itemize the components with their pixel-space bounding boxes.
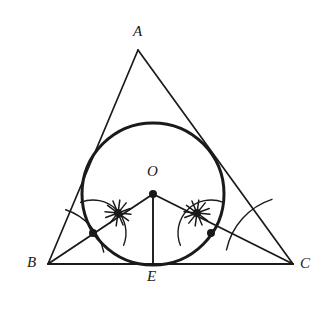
construction-star-right-icon [184,200,210,226]
angle-bisector-from-b [48,194,153,264]
vertex-label-a: A [133,24,142,39]
triangle-side-ac [138,50,293,264]
point-label-e: E [147,269,156,284]
geometry-figure: A B C O E [0,0,335,310]
tangent-point-right [207,229,215,237]
vertex-label-c: C [300,256,310,271]
geometry-canvas [0,0,335,310]
construction-arc-group [66,199,272,252]
point-label-o: O [147,164,158,179]
tangent-point-left [89,229,97,237]
vertex-label-b: B [27,255,36,270]
incenter-point-o [149,190,157,198]
